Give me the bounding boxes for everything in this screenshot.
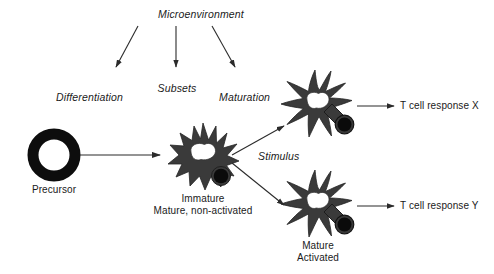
- t-cell-response-y-label: T cell response Y: [400, 200, 479, 212]
- immature-cell-nucleus: [191, 143, 216, 160]
- mature-top-cell-graphic: [281, 70, 354, 137]
- differentiation-label: Differentiation: [56, 91, 123, 103]
- subsets-label: Subsets: [158, 82, 197, 94]
- mature-top-tube-opening: [338, 118, 352, 132]
- t-cell-response-x-label: T cell response X: [400, 100, 479, 112]
- dendritic-cell-maturation-figure: Microenvironment Differentiation Subsets…: [0, 0, 494, 274]
- immature-cell-label-line1: Immature: [154, 193, 253, 205]
- mature-bottom-cell-label: Mature Activated: [297, 240, 339, 264]
- immature-cell-label: Immature Mature, non-activated: [154, 193, 253, 217]
- mature-bottom-cell-graphic: [281, 170, 354, 237]
- mature-bottom-tube-opening: [338, 218, 352, 232]
- maturation-label: Maturation: [219, 91, 270, 103]
- diagram-canvas: [0, 0, 494, 274]
- immature-cell-label-line2: Mature, non-activated: [154, 205, 253, 217]
- arrow-microenvironment-to-maturation: [212, 26, 235, 67]
- mature-bottom-cell-label-line1: Mature: [297, 240, 339, 252]
- mature-bottom-cell-nucleus: [307, 192, 329, 208]
- immature-cell-granule: [214, 169, 229, 184]
- mature-top-cell-nucleus: [307, 92, 329, 108]
- precursor-label: Precursor: [32, 184, 76, 196]
- arrow-microenvironment-to-differentiation: [116, 26, 138, 67]
- mature-bottom-cell-label-line2: Activated: [297, 252, 339, 264]
- stimulus-label: Stimulus: [258, 150, 299, 162]
- precursor-cell-graphic: [33, 134, 75, 176]
- immature-cell-graphic: [168, 123, 239, 190]
- microenvironment-arrows: [116, 26, 235, 67]
- microenvironment-label: Microenvironment: [158, 8, 244, 20]
